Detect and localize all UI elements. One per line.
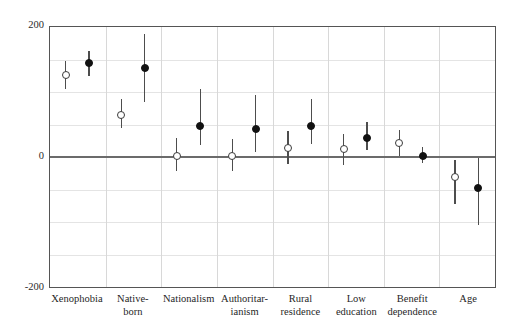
open-circle-marker xyxy=(284,144,292,152)
y-axis-tick-label-top: 200 xyxy=(0,19,44,30)
confidence-interval-bar xyxy=(454,160,455,204)
open-circle-marker xyxy=(228,152,236,160)
open-circle-marker xyxy=(117,111,125,119)
open-circle-marker xyxy=(173,152,181,160)
open-circle-marker xyxy=(62,71,70,79)
open-circle-marker xyxy=(340,145,348,153)
open-circle-marker xyxy=(451,173,459,181)
filled-circle-marker xyxy=(363,134,371,142)
plot-area xyxy=(49,26,496,288)
y-axis-tick-label-bottom: -200 xyxy=(0,281,44,292)
filled-circle-marker xyxy=(196,122,204,130)
coefficient-plot-figure: 200 0 -200 XenophobiaNative- bornNationa… xyxy=(0,0,510,328)
confidence-interval-bar xyxy=(200,89,201,145)
filled-circle-marker xyxy=(307,122,315,130)
open-circle-marker xyxy=(395,139,403,147)
filled-circle-marker xyxy=(419,152,427,160)
filled-circle-marker xyxy=(474,184,482,192)
x-axis-category-labels: XenophobiaNative- bornNationalismAuthori… xyxy=(49,292,496,328)
y-axis-tick-label-zero: 0 xyxy=(0,150,44,161)
confidence-interval-bar xyxy=(255,95,256,152)
filled-circle-marker xyxy=(85,59,93,67)
filled-circle-marker xyxy=(141,64,149,72)
zero-reference-line xyxy=(50,156,495,158)
x-axis-category-label: Age xyxy=(434,292,502,305)
filled-circle-marker xyxy=(252,125,260,133)
